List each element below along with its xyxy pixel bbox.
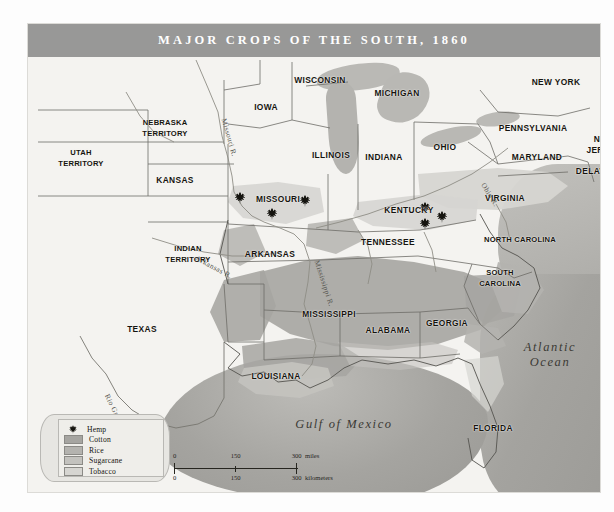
map-canvas[interactable]: WISCONSINMICHIGANNEW YORKIOWANEBRASKA TE… <box>28 24 600 492</box>
river-label-arkansas-r: Arkansas R. <box>194 254 234 281</box>
scale-miles-tick-0: 0 <box>173 452 176 459</box>
legend-label-tobacco: Tobacco <box>89 467 116 476</box>
map-scale-bar: 01503000150300mileskilometers <box>168 449 318 487</box>
river-label-missouri-r: Missouri R. <box>220 117 239 157</box>
river-label-mississippi-r: Mississippi R. <box>313 259 336 307</box>
legend-item-rice[interactable]: Rice <box>64 445 104 455</box>
scale-tick-right <box>296 463 297 474</box>
legend-item-tobacco[interactable]: Tobacco <box>64 466 116 476</box>
scale-km-tick-0: 0 <box>173 474 176 481</box>
scale-tick-left <box>174 463 175 474</box>
legend-item-cotton[interactable]: Cotton <box>64 435 111 445</box>
scale-unit-miles: miles <box>305 452 319 459</box>
scale-unit-kilometers: kilometers <box>305 474 333 481</box>
legend-label-rice: Rice <box>89 446 104 455</box>
scale-km-tick-1: 150 <box>231 474 241 481</box>
legend-panel: HempCottonRiceSugarcaneTobacco <box>58 419 164 477</box>
scale-km-tick-2: 300 <box>292 474 302 481</box>
legend-swatch-cotton <box>64 435 83 444</box>
scale-miles-tick-2: 300 <box>292 452 302 459</box>
legend-item-sugarcane[interactable]: Sugarcane <box>64 456 122 466</box>
legend-label-cotton: Cotton <box>89 435 111 444</box>
map-screenshot: WISCONSINMICHIGANNEW YORKIOWANEBRASKA TE… <box>0 0 614 512</box>
map-title: MAJOR CROPS OF THE SOUTH, 1860 <box>158 33 470 48</box>
river-label-ohio-r: Ohio R. <box>479 181 501 208</box>
legend-swatch-tobacco <box>64 467 83 476</box>
legend-label-sugarcane: Sugarcane <box>89 456 122 465</box>
map-title-banner: MAJOR CROPS OF THE SOUTH, 1860 <box>28 24 600 57</box>
hemp-leaf-icon <box>64 425 81 434</box>
legend-item-hemp[interactable]: Hemp <box>64 424 106 434</box>
scale-tick-mid <box>235 466 236 472</box>
legend-swatch-sugarcane <box>64 456 83 465</box>
scale-miles-tick-1: 150 <box>231 452 241 459</box>
map-legend[interactable]: HempCottonRiceSugarcaneTobacco <box>40 414 168 480</box>
legend-swatch-rice <box>64 446 83 455</box>
legend-label-hemp: Hemp <box>87 425 106 434</box>
